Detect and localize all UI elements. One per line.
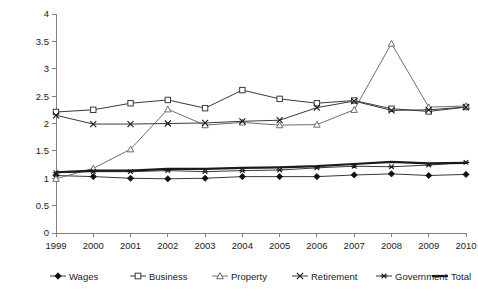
marker-open-triangle: [351, 107, 357, 113]
y-axis-tick-labels: 00.511.522.533.54: [36, 8, 49, 238]
series-line-retirement: [56, 101, 466, 124]
marker-asterisk: [388, 164, 394, 169]
marker-open-square: [277, 96, 282, 101]
marker-filled-diamond: [55, 273, 62, 280]
chart-container: 00.511.522.533.54 1999200020012002200320…: [0, 0, 478, 294]
x-axis-tick-label: 2005: [269, 240, 290, 251]
legend-label-wages: Wages: [69, 271, 98, 282]
marker-open-square: [202, 105, 207, 110]
marker-asterisk: [202, 169, 208, 174]
chart-axes: [52, 14, 466, 237]
legend-label-total: Total: [451, 271, 471, 282]
x-axis-tick-label: 2008: [381, 240, 402, 251]
marker-filled-diamond: [351, 172, 357, 178]
marker-filled-diamond: [314, 174, 320, 180]
series-retirement: [53, 98, 469, 127]
legend-label-retirement: Retirement: [311, 271, 358, 282]
series-line-business: [56, 90, 466, 112]
marker-filled-diamond: [127, 175, 133, 181]
x-axis-tick-label: 2007: [344, 240, 365, 251]
marker-filled-diamond: [90, 174, 96, 180]
data-series-group: [53, 40, 469, 182]
series-line-wages: [56, 174, 466, 179]
marker-open-triangle: [388, 40, 394, 46]
x-axis-tick-label: 2003: [195, 240, 216, 251]
x-axis-tick-labels: 1999200020012002200320042005200620072008…: [45, 240, 476, 251]
marker-filled-diamond: [463, 171, 469, 177]
y-axis-tick-label: 1: [44, 173, 49, 184]
y-axis-tick-label: 0.5: [36, 200, 49, 211]
series-property: [53, 40, 469, 181]
y-axis-tick-label: 3: [44, 63, 49, 74]
marker-filled-diamond: [388, 171, 394, 177]
marker-filled-diamond: [202, 175, 208, 181]
x-axis-tick-label: 2009: [418, 240, 439, 251]
marker-open-square: [91, 107, 96, 112]
line-chart: 00.511.522.533.54 1999200020012002200320…: [0, 0, 478, 294]
x-axis-tick-label: 2000: [83, 240, 104, 251]
legend-item-retirement[interactable]: Retirement: [292, 271, 358, 282]
y-axis-tick-label: 1.5: [36, 145, 49, 156]
y-axis-tick-label: 4: [44, 8, 49, 19]
marker-filled-diamond: [165, 176, 171, 182]
marker-open-square: [165, 97, 170, 102]
marker-filled-diamond: [277, 174, 283, 180]
marker-filled-diamond: [239, 174, 245, 180]
x-axis-tick-label: 2006: [306, 240, 327, 251]
x-axis-tick-label: 2001: [120, 240, 141, 251]
marker-open-square: [135, 273, 141, 279]
x-axis-tick-label: 2002: [157, 240, 178, 251]
x-axis-tick-label: 1999: [45, 240, 66, 251]
y-axis-tick-label: 2.5: [36, 91, 49, 102]
legend-label-property: Property: [231, 271, 267, 282]
marker-open-triangle: [165, 106, 171, 112]
x-axis-tick-label: 2004: [232, 240, 253, 251]
x-axis-tick-label: 2010: [455, 240, 476, 251]
marker-filled-diamond: [426, 172, 432, 178]
y-axis-tick-label: 2: [44, 118, 49, 129]
legend-label-business: Business: [149, 271, 188, 282]
legend-item-wages[interactable]: Wages: [50, 271, 98, 282]
series-line-property: [56, 44, 466, 179]
legend-item-business[interactable]: Business: [130, 271, 188, 282]
legend-item-property[interactable]: Property: [212, 271, 267, 282]
chart-legend: WagesBusinessPropertyRetirementGovernmen…: [50, 271, 471, 282]
y-axis-tick-label: 3.5: [36, 36, 49, 47]
y-axis-tick-label: 0: [44, 227, 49, 238]
series-wages: [53, 171, 469, 182]
marker-asterisk: [381, 274, 388, 279]
marker-open-square: [128, 101, 133, 106]
marker-open-square: [240, 87, 245, 92]
